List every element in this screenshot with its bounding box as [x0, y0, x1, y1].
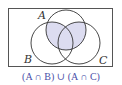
shaded-region [31, 22, 100, 64]
label-c: C [99, 54, 108, 67]
caption: (A ∩ B) ∪ (A ∩ C) [0, 71, 122, 82]
label-b: B [23, 53, 32, 66]
label-a: A [37, 9, 46, 22]
